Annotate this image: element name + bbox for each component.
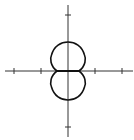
polar-plot [0,0,134,140]
